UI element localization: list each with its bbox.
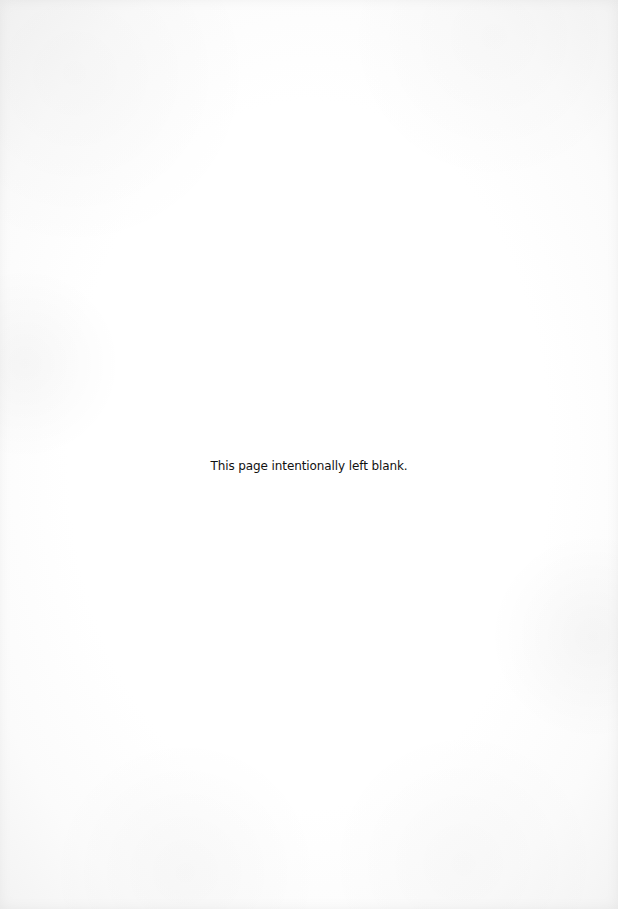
document-page: This page intentionally left blank. [0,0,618,909]
blank-page-notice: This page intentionally left blank. [0,459,618,473]
paper-texture [0,0,618,909]
